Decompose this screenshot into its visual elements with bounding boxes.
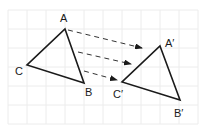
label-b-prime: B′: [174, 107, 183, 119]
label-a-prime: A′: [165, 37, 174, 49]
dashed-arrow: [68, 30, 142, 48]
label-a: A: [60, 12, 68, 24]
grid: [8, 10, 198, 124]
dashed-arrow: [78, 52, 131, 64]
label-c-prime: C′: [113, 88, 123, 100]
translation-diagram: A B C A′ B′ C′: [0, 0, 202, 136]
original-triangle-abc: [27, 29, 84, 83]
label-b: B: [85, 86, 92, 98]
dashed-arrow: [84, 71, 117, 80]
image-triangle-abc-prime: [122, 46, 180, 100]
label-c: C: [15, 65, 23, 77]
